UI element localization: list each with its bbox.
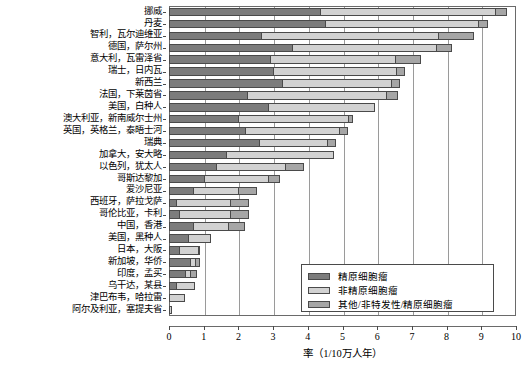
bar-row[interactable] (169, 103, 375, 111)
bar-segment-other[interactable] (230, 199, 249, 207)
bar-segment-seminoma[interactable] (169, 199, 176, 207)
bar-segment-other[interactable] (436, 44, 452, 52)
bar-row[interactable] (169, 234, 211, 242)
bar-row[interactable] (169, 115, 353, 123)
bar-row[interactable] (169, 151, 334, 159)
bar-segment-nonseminoma[interactable] (169, 306, 172, 314)
bar-row[interactable] (169, 187, 257, 195)
bar-segment-seminoma[interactable] (169, 32, 261, 40)
x-axis-tick-1 (204, 326, 205, 330)
bar-row[interactable] (169, 175, 280, 183)
bar-row[interactable] (169, 199, 249, 207)
bar-segment-other[interactable] (396, 67, 405, 75)
bar-segment-seminoma[interactable] (169, 115, 238, 123)
bar-segment-other[interactable] (285, 163, 304, 171)
bar-row[interactable] (169, 32, 474, 40)
bar-segment-nonseminoma[interactable] (226, 151, 334, 159)
bar-row[interactable] (169, 282, 195, 290)
bar-segment-seminoma[interactable] (169, 55, 270, 63)
bar-segment-nonseminoma[interactable] (325, 20, 478, 28)
bar-segment-other[interactable] (391, 79, 400, 87)
y-axis-label: 智利，瓦尔迪维亚 (90, 30, 162, 38)
bar-segment-nonseminoma[interactable] (179, 210, 229, 218)
bar-segment-seminoma[interactable] (169, 103, 268, 111)
bar-row[interactable] (169, 44, 452, 52)
bar-segment-seminoma[interactable] (169, 151, 226, 159)
bar-segment-other[interactable] (268, 175, 280, 183)
bar-row[interactable] (169, 91, 398, 99)
bar-segment-seminoma[interactable] (169, 8, 320, 16)
bar-segment-other[interactable] (190, 270, 197, 278)
y-axis-tick (163, 203, 166, 204)
bar-row[interactable] (169, 210, 249, 218)
bar-row[interactable] (169, 163, 304, 171)
bar-segment-seminoma[interactable] (169, 246, 179, 254)
bar-segment-seminoma[interactable] (169, 139, 259, 147)
bar-segment-seminoma[interactable] (169, 270, 185, 278)
bar-segment-other[interactable] (198, 246, 200, 254)
bar-row[interactable] (169, 79, 400, 87)
bar-segment-other[interactable] (495, 8, 507, 16)
bar-row[interactable] (169, 55, 421, 63)
bar-segment-other[interactable] (386, 91, 398, 99)
bar-segment-seminoma[interactable] (169, 79, 282, 87)
bar-segment-other[interactable] (478, 20, 488, 28)
bar-row[interactable] (169, 258, 200, 266)
bar-segment-seminoma[interactable] (169, 210, 179, 218)
bar-segment-seminoma[interactable] (169, 44, 292, 52)
bar-segment-seminoma[interactable] (169, 127, 245, 135)
bar-segment-other[interactable] (228, 222, 245, 230)
bar-segment-nonseminoma[interactable] (169, 294, 185, 302)
bar-segment-nonseminoma[interactable] (282, 79, 391, 87)
bar-segment-other[interactable] (348, 115, 353, 123)
bar-segment-nonseminoma[interactable] (238, 115, 347, 123)
bar-row[interactable] (169, 270, 197, 278)
bar-segment-nonseminoma[interactable] (188, 234, 211, 242)
bar-segment-nonseminoma[interactable] (273, 67, 396, 75)
y-axis-tick (163, 24, 166, 25)
bar-row[interactable] (169, 246, 200, 254)
bar-segment-nonseminoma[interactable] (320, 8, 495, 16)
bar-segment-nonseminoma[interactable] (268, 103, 376, 111)
bar-segment-seminoma[interactable] (169, 282, 176, 290)
bar-segment-other[interactable] (339, 127, 348, 135)
bar-row[interactable] (169, 139, 336, 147)
bar-segment-seminoma[interactable] (169, 67, 273, 75)
bar-segment-other[interactable] (395, 55, 421, 63)
bar-segment-nonseminoma[interactable] (245, 127, 339, 135)
bar-segment-nonseminoma[interactable] (193, 222, 228, 230)
bar-segment-other[interactable] (195, 258, 200, 266)
bar-segment-nonseminoma[interactable] (259, 139, 327, 147)
bar-segment-nonseminoma[interactable] (179, 246, 198, 254)
bar-row[interactable] (169, 8, 507, 16)
bar-segment-seminoma[interactable] (169, 91, 247, 99)
bar-segment-nonseminoma[interactable] (247, 91, 386, 99)
bar-segment-seminoma[interactable] (169, 175, 204, 183)
bar-row[interactable] (169, 127, 348, 135)
bar-segment-nonseminoma[interactable] (204, 175, 268, 183)
bar-segment-other[interactable] (238, 187, 257, 195)
bar-segment-nonseminoma[interactable] (261, 32, 438, 40)
bar-row[interactable] (169, 222, 245, 230)
bar-segment-other[interactable] (438, 32, 474, 40)
bar-segment-seminoma[interactable] (169, 234, 188, 242)
bar-segment-other[interactable] (327, 139, 336, 147)
bar-segment-seminoma[interactable] (169, 258, 190, 266)
bar-segment-nonseminoma[interactable] (216, 163, 285, 171)
bar-row[interactable] (169, 67, 405, 75)
bar-segment-seminoma[interactable] (169, 20, 325, 28)
bar-segment-nonseminoma[interactable] (270, 55, 395, 63)
bar-segment-other[interactable] (230, 210, 249, 218)
bar-segment-nonseminoma[interactable] (193, 187, 238, 195)
y-axis-tick (163, 298, 166, 299)
bar-row[interactable] (169, 20, 488, 28)
bar-segment-seminoma[interactable] (169, 222, 193, 230)
x-axis-tick-label-2: 2 (236, 331, 241, 342)
bar-row[interactable] (169, 294, 185, 302)
bar-segment-seminoma[interactable] (169, 187, 193, 195)
bar-segment-nonseminoma[interactable] (292, 44, 436, 52)
bar-segment-seminoma[interactable] (169, 163, 216, 171)
bar-row[interactable] (169, 306, 172, 314)
bar-segment-nonseminoma[interactable] (176, 199, 230, 207)
bar-segment-nonseminoma[interactable] (176, 282, 195, 290)
